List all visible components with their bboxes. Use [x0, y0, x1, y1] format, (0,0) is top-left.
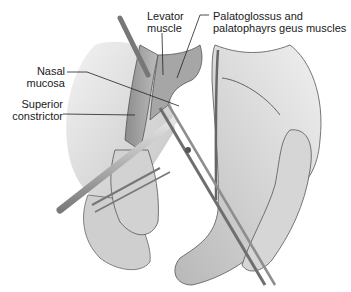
label-line: palatophayrs geus muscles — [213, 22, 346, 34]
label-line: Superior — [2, 98, 63, 110]
illustration-svg — [0, 0, 351, 292]
label-superior-constrictor: Superior constrictor — [2, 98, 63, 122]
label-line: Palatoglossus and — [213, 10, 346, 22]
label-line: Nasal — [22, 65, 65, 77]
label-line: constrictor — [2, 110, 63, 122]
right-palate-half — [175, 45, 321, 285]
label-line: mucosa — [22, 77, 65, 89]
label-levator-muscle: Levator muscle — [147, 10, 184, 34]
palate-surgery-illustration: Levator muscle Palatoglossus and palatop… — [0, 0, 351, 292]
label-line: Levator — [147, 10, 184, 22]
label-palatoglossus: Palatoglossus and palatophayrs geus musc… — [213, 10, 346, 34]
label-line: muscle — [147, 22, 184, 34]
label-nasal-mucosa: Nasal mucosa — [22, 65, 65, 89]
